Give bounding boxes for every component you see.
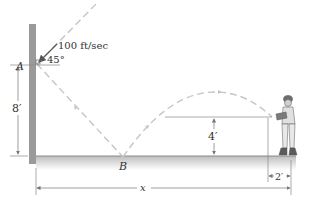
player-leg-right: [289, 124, 295, 148]
descent-path: [37, 64, 123, 157]
player-foot-right: [289, 148, 297, 155]
trajectory: [37, 2, 272, 157]
bounce-arc: [123, 92, 272, 157]
point-b-label: B: [118, 160, 127, 173]
path-arrow-3: [218, 90, 222, 94]
angle-label: 45°: [47, 54, 65, 65]
diagram-canvas: A 100 ft/sec 45° 8′ B 4′ 2′ x: [0, 0, 310, 206]
wall: [29, 24, 36, 164]
ballplayer: [276, 96, 297, 156]
height-a-label: 8′: [12, 102, 22, 115]
distance-label: x: [140, 182, 146, 193]
player-leg-left: [282, 124, 288, 148]
ground: [36, 156, 296, 170]
bounce-height-label: 4′: [208, 130, 218, 143]
catch-offset-label: 2′: [275, 171, 283, 182]
player-head: [285, 100, 292, 107]
player-foot-left: [279, 148, 287, 155]
point-a-label: A: [15, 60, 24, 73]
speed-label: 100 ft/sec: [58, 40, 108, 51]
